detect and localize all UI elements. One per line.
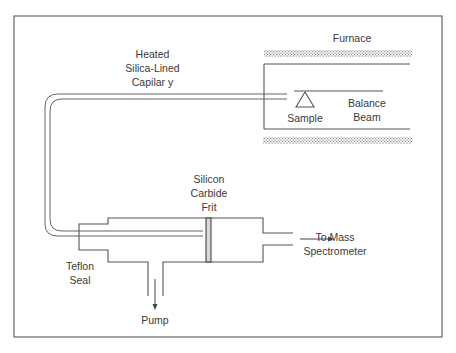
label-mass-spec-line-2: Spectrometer <box>295 244 375 258</box>
filter-housing <box>79 218 293 296</box>
label-capillary: Heated Silica-Lined Capilar y <box>115 47 190 89</box>
heated-capillary <box>45 94 287 236</box>
label-pump: Pump <box>135 313 175 327</box>
label-mass-spec-line-1: To Mass <box>295 230 375 244</box>
label-sample: Sample <box>280 111 330 125</box>
sample-pan-triangle <box>296 92 314 107</box>
furnace-heater-bottom <box>263 137 412 144</box>
label-balance-beam-line-2: Beam <box>337 110 397 124</box>
label-teflon-seal-line-1: Teflon <box>58 259 102 273</box>
arrow-to-pump-icon <box>153 279 158 310</box>
label-teflon-seal: Teflon Seal <box>58 259 102 287</box>
label-capillary-line-1: Heated <box>115 47 190 61</box>
label-frit-line-1: Silicon <box>182 172 236 186</box>
label-capillary-line-3: Capilar y <box>115 75 190 89</box>
label-furnace: Furnace <box>322 31 382 45</box>
label-teflon-seal-line-2: Seal <box>58 273 102 287</box>
label-balance-beam: Balance Beam <box>337 96 397 124</box>
label-capillary-line-2: Silica-Lined <box>115 61 190 75</box>
label-balance-beam-line-1: Balance <box>337 96 397 110</box>
furnace-heater-top <box>264 50 412 57</box>
label-frit-line-3: Frit <box>182 200 236 214</box>
label-frit-line-2: Carbide <box>182 186 236 200</box>
label-frit: Silicon Carbide Frit <box>182 172 236 214</box>
silicon-carbide-frit <box>206 218 211 262</box>
label-mass-spec: To Mass Spectrometer <box>295 230 375 258</box>
